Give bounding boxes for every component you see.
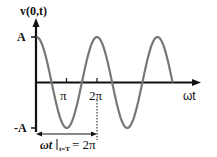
annotation-omega-t: ωt — [40, 138, 52, 153]
arrow-left-icon — [36, 132, 42, 137]
y-axis-label: v(0,t) — [20, 4, 47, 19]
plot-graphics — [0, 0, 217, 157]
x-tick-2pi: 2π — [89, 88, 102, 104]
negative-amplitude-label: -A — [14, 121, 27, 136]
y-axis-arrow-icon — [33, 18, 40, 27]
x-tick-pi: π — [60, 88, 67, 104]
annotation-equals: = 2π — [72, 137, 96, 153]
annotation-subscript: t=T — [59, 145, 70, 153]
x-axis-arrow-icon — [192, 79, 201, 86]
cosine-wave-diagram: v(0,t) A -A π 2π ωt ωt t=T = 2π — [0, 0, 217, 157]
x-axis-label: ωt — [183, 89, 196, 103]
amplitude-label: A — [17, 30, 26, 45]
arrow-right-icon — [91, 132, 97, 137]
